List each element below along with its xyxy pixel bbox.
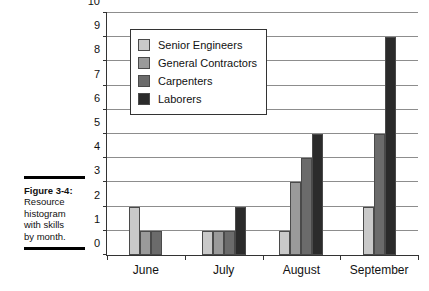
legend-label: Carpenters — [158, 75, 212, 87]
bar-september-laborers — [385, 37, 396, 255]
legend-swatch-icon — [138, 93, 150, 105]
y-axis-label-3: 3 — [94, 164, 100, 176]
caption-text: Figure 3-4: Resource histogram with skil… — [24, 185, 94, 242]
x-axis-label-august: August — [283, 263, 320, 277]
caption-line-2: histogram — [24, 208, 94, 219]
x-tick-mark-1 — [185, 255, 186, 260]
x-tick-mark-end — [418, 255, 419, 260]
x-axis-label-july: July — [213, 263, 234, 277]
resource-histogram-chart: 012345678910 JuneJulyAugustSeptember Sen… — [106, 13, 418, 256]
bar-august-laborers — [312, 134, 323, 255]
bar-june-general-contractors — [140, 231, 151, 255]
caption-line-3: with skills — [24, 219, 94, 230]
caption-line-4: by month. — [24, 231, 94, 242]
legend-item-senior-engineers: Senior Engineers — [138, 36, 257, 54]
y-axis-label-1: 1 — [94, 213, 100, 225]
chart-legend: Senior EngineersGeneral ContractorsCarpe… — [130, 29, 267, 115]
legend-swatch-icon — [138, 39, 150, 51]
x-axis-label-september: September — [350, 263, 409, 277]
bar-august-senior-engineers — [279, 231, 290, 255]
y-axis-label-7: 7 — [94, 68, 100, 80]
legend-item-general-contractors: General Contractors — [138, 54, 257, 72]
bar-august-general-contractors — [290, 182, 301, 255]
legend-label: Laborers — [158, 93, 201, 105]
bar-group-september — [340, 13, 418, 255]
x-tick-mark-0 — [107, 255, 108, 260]
caption-rule-top — [24, 176, 85, 179]
x-tick-mark-2 — [263, 255, 264, 260]
y-axis-label-8: 8 — [94, 43, 100, 55]
bar-july-laborers — [235, 207, 246, 255]
y-axis-label-0: 0 — [94, 237, 100, 249]
y-axis-label-5: 5 — [94, 116, 100, 128]
legend-swatch-icon — [138, 57, 150, 69]
bar-september-carpenters — [374, 134, 385, 255]
bar-september-senior-engineers — [363, 207, 374, 255]
y-axis-label-10: 10 — [88, 0, 100, 7]
y-axis-label-6: 6 — [94, 92, 100, 104]
y-axis-label-9: 9 — [94, 19, 100, 31]
bar-group-august — [263, 13, 341, 255]
bar-july-senior-engineers — [202, 231, 213, 255]
legend-label: General Contractors — [158, 57, 257, 69]
caption-line-1: Resource — [24, 196, 94, 207]
legend-item-carpenters: Carpenters — [138, 72, 257, 90]
legend-label: Senior Engineers — [158, 39, 242, 51]
x-axis-label-june: June — [133, 263, 159, 277]
x-tick-mark-3 — [340, 255, 341, 260]
bar-july-carpenters — [224, 231, 235, 255]
bar-june-senior-engineers — [129, 207, 140, 255]
y-axis-label-4: 4 — [94, 140, 100, 152]
caption-rule-bottom — [24, 247, 85, 250]
caption-figure-label: Figure 3-4: — [24, 185, 94, 196]
bar-august-carpenters — [301, 158, 312, 255]
y-axis-label-2: 2 — [94, 189, 100, 201]
bar-june-carpenters — [151, 231, 162, 255]
bar-july-general-contractors — [213, 231, 224, 255]
figure-caption: Figure 3-4: Resource histogram with skil… — [24, 176, 94, 250]
legend-item-laborers: Laborers — [138, 90, 257, 108]
legend-swatch-icon — [138, 75, 150, 87]
